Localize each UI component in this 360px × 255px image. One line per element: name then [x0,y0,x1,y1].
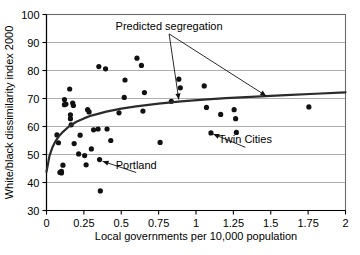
x-tick-label-1.5: 1.5 [263,217,278,229]
data-point [91,127,96,132]
y-tick-label-100: 100 [21,9,39,21]
data-point [178,85,183,90]
x-axis-title: Local governments per 10,000 population [95,230,297,242]
x-tick-label-1: 1 [193,217,199,229]
data-point [95,126,100,131]
data-point [87,109,92,114]
annotation-label-predicted-segregation: Predicted segregation [116,20,223,32]
x-tick-label-0.75: 0.75 [148,217,169,229]
data-point [84,162,89,167]
data-point [306,104,311,109]
x-tick-label-0: 0 [43,217,49,229]
data-point [68,116,73,121]
data-point [202,83,207,88]
x-tick-label-1.75: 1.75 [297,217,318,229]
data-point [233,116,238,121]
data-point [122,77,127,82]
data-point [158,140,163,145]
annotation-label-portland: Portland [116,159,157,171]
data-point [176,77,181,82]
data-point [62,97,67,102]
data-point [134,56,139,61]
y-tick-label-80: 80 [27,65,39,77]
x-tick-label-2: 2 [342,217,348,229]
y-tick-label-40: 40 [27,177,39,189]
y-tick-label-60: 60 [27,121,39,133]
data-point [204,105,209,110]
data-point [76,151,81,156]
data-point [122,95,127,100]
x-axis-tick-labels-group: 00.250.50.7511.251.51.752 [43,217,348,229]
data-point [72,141,77,146]
data-point [116,110,121,115]
y-axis-title: White/black dissimilarity index 2000 [3,26,15,200]
y-tick-label-90: 90 [27,37,39,49]
data-point [139,63,144,68]
x-tick-label-0.5: 0.5 [114,217,129,229]
data-point [98,188,103,193]
data-point [140,109,145,114]
data-point [97,157,102,162]
data-point [78,133,83,138]
data-point [108,138,113,143]
scatter-chart-figure: 30405060708090100 00.250.50.7511.251.51.… [0,0,360,255]
y-tick-label-30: 30 [27,205,39,217]
data-point [67,86,72,91]
x-tick-label-0.25: 0.25 [73,217,94,229]
chart-canvas: 30405060708090100 00.250.50.7511.251.51.… [0,0,360,255]
data-point [104,126,109,131]
data-point [232,107,237,112]
x-tick-label-1.25: 1.25 [223,217,244,229]
data-point [142,90,147,95]
y-tick-label-70: 70 [27,93,39,105]
data-point [59,169,64,174]
data-point [208,130,213,135]
annotation-label-twin-cities: Twin Cities [219,133,273,145]
data-point [96,64,101,69]
data-point [103,66,108,71]
data-point [82,153,87,158]
data-point [71,103,76,108]
data-point [218,112,223,117]
data-point [89,146,94,151]
data-point [63,102,68,107]
y-tick-label-50: 50 [27,149,39,161]
data-point [60,163,65,168]
